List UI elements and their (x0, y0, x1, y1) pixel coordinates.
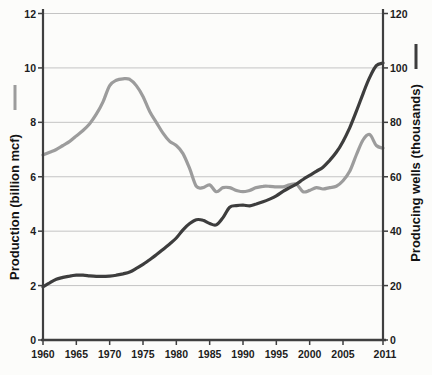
production-line (43, 79, 383, 192)
y-right-tick-label: 80 (390, 116, 402, 128)
y-left-tick-label: 8 (30, 116, 36, 128)
x-tick-label: 2000 (298, 348, 322, 360)
left-axis-title: Production (billion mcf) (7, 134, 22, 280)
x-tick-label: 2005 (331, 348, 355, 360)
y-right-tick-label: 120 (390, 8, 408, 20)
x-tick-label: 1965 (65, 348, 89, 360)
wells-line (43, 63, 383, 287)
x-tick-label: 1985 (198, 348, 222, 360)
y-left-tick-label: 10 (24, 62, 36, 74)
y-left-tick-label: 12 (24, 8, 36, 20)
x-tick-label: 2011 (374, 348, 397, 360)
y-left-tick-label: 4 (30, 225, 36, 237)
y-right-tick-label: 100 (390, 62, 408, 74)
y-left-tick-label: 6 (30, 171, 36, 183)
x-tick-label: 1960 (31, 348, 55, 360)
y-right-tick-label: 20 (390, 280, 402, 292)
plot-area: 0246810120204060801001201960196519701975… (24, 8, 407, 361)
y-left-tick-label: 2 (30, 280, 36, 292)
y-right-tick-label: 0 (390, 334, 396, 346)
x-tick-label: 1980 (165, 348, 189, 360)
dual-axis-line-chart: 0246810120204060801001201960196519701975… (0, 0, 432, 375)
y-right-tick-label: 40 (390, 225, 402, 237)
y-right-tick-label: 60 (390, 171, 402, 183)
chart-page: 0246810120204060801001201960196519701975… (0, 0, 432, 375)
right-axis-title: Producing wells (thousands) (408, 84, 423, 262)
x-tick-label: 1970 (98, 348, 122, 360)
x-tick-label: 1990 (231, 348, 255, 360)
x-tick-label: 1995 (265, 348, 289, 360)
x-tick-label: 1975 (131, 348, 155, 360)
y-left-tick-label: 0 (30, 334, 36, 346)
